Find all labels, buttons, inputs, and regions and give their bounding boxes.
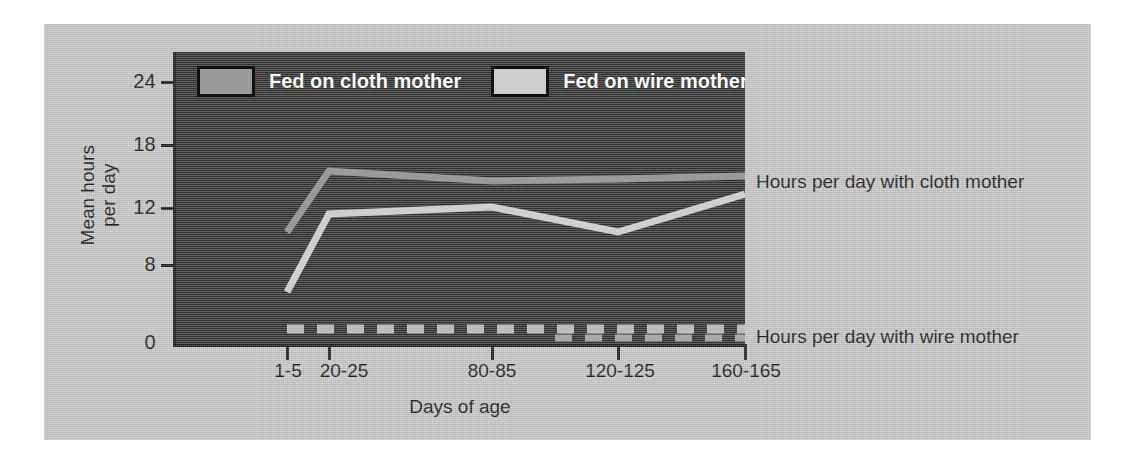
series-line-wire xyxy=(287,194,745,292)
figure-panel: Fed on cloth mother Fed on wire mother 2… xyxy=(44,24,1091,440)
x-axis-title: Days of age xyxy=(175,396,745,418)
y-axis-title-line2: per day xyxy=(98,115,119,275)
legend-swatch-wire xyxy=(491,66,549,97)
annotation-wire-mother: Hours per day with wire mother xyxy=(756,326,1019,348)
legend-label-cloth: Fed on cloth mother xyxy=(269,70,461,93)
x-tick-1-5 xyxy=(286,347,289,360)
y-tick-12 xyxy=(161,207,173,210)
x-tick-label-80-85: 80-85 xyxy=(468,360,517,382)
legend-item-cloth: Fed on cloth mother xyxy=(197,66,461,97)
x-tick-label-120-125: 120-125 xyxy=(585,360,655,382)
y-axis-title: Mean hours per day xyxy=(77,115,120,275)
legend-swatch-cloth xyxy=(197,66,255,97)
y-axis-title-line1: Mean hours xyxy=(77,115,98,275)
x-axis-line xyxy=(173,344,747,347)
y-tick-8 xyxy=(161,264,173,267)
annotation-cloth-mother: Hours per day with cloth mother xyxy=(756,171,1024,193)
x-tick-160-165 xyxy=(744,347,747,360)
plot-area: Fed on cloth mother Fed on wire mother xyxy=(175,52,745,344)
x-tick-20-25 xyxy=(328,347,331,360)
y-tick-24 xyxy=(161,81,173,84)
y-tick-18 xyxy=(161,144,173,147)
x-tick-label-160-165: 160-165 xyxy=(711,360,781,382)
y-tick-label-12: 12 xyxy=(116,196,156,219)
y-tick-label-0: 0 xyxy=(116,331,156,354)
x-tick-120-125 xyxy=(617,347,620,360)
chart-legend: Fed on cloth mother Fed on wire mother xyxy=(197,66,745,97)
x-tick-label-1-5: 1-5 xyxy=(274,360,301,382)
y-tick-label-8: 8 xyxy=(116,253,156,276)
x-tick-label-20-25: 20-25 xyxy=(320,360,369,382)
legend-label-wire: Fed on wire mother xyxy=(563,70,745,93)
x-tick-80-85 xyxy=(491,347,494,360)
y-tick-label-18: 18 xyxy=(116,133,156,156)
y-tick-label-24: 24 xyxy=(116,70,156,93)
legend-item-wire: Fed on wire mother xyxy=(491,66,745,97)
series-line-cloth xyxy=(287,171,745,232)
